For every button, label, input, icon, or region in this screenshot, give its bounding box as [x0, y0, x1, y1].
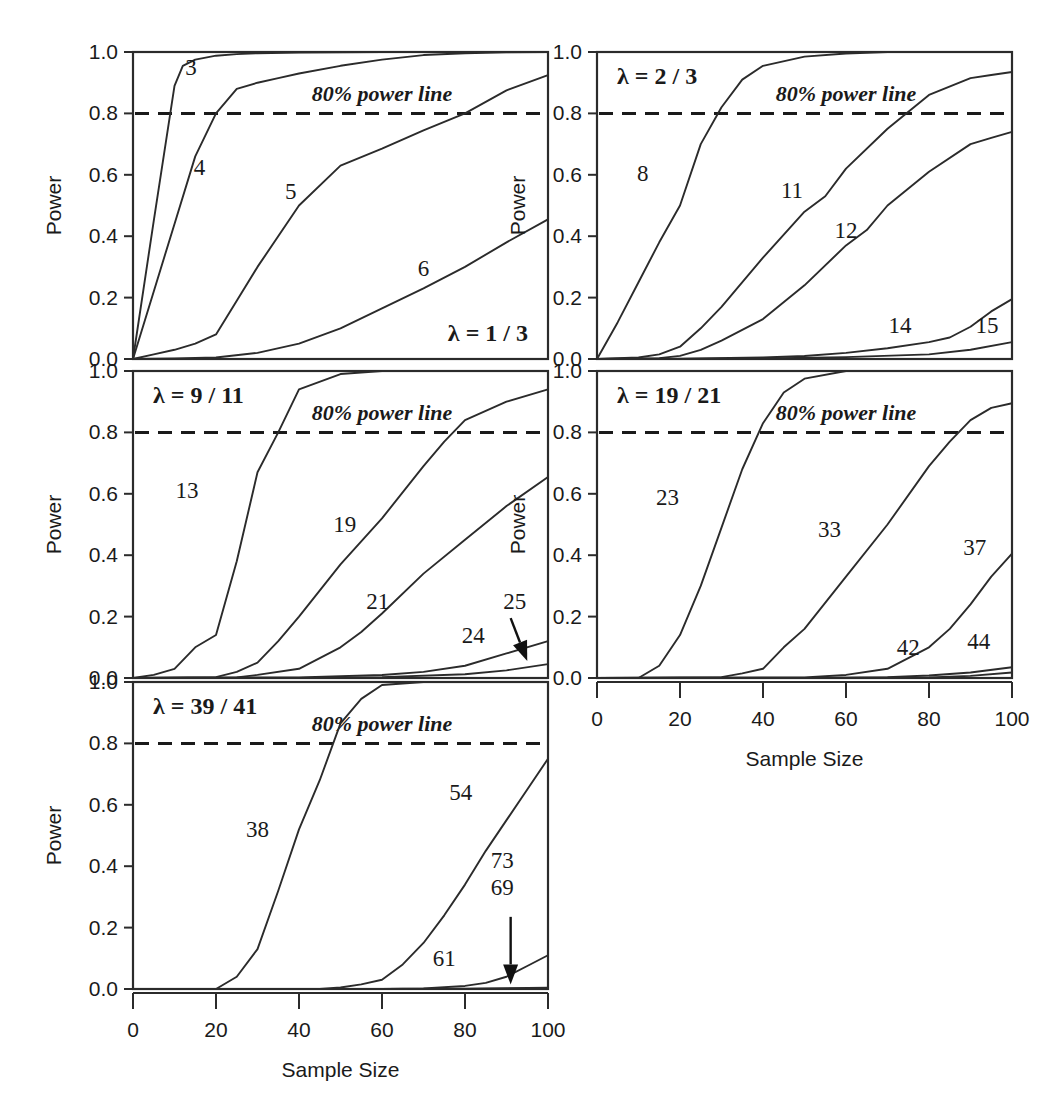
curve-label-8: 8	[637, 161, 649, 186]
x-axis-tick-label: 100	[530, 1018, 565, 1041]
y-axis-title: Power	[506, 495, 529, 555]
y-axis-tick-label: 0.8	[553, 420, 582, 443]
y-axis-tick-label: 0.6	[89, 163, 118, 186]
power-line-note: 80% power line	[776, 400, 917, 425]
curve-label-73: 73	[491, 848, 514, 873]
curve-label-19: 19	[333, 512, 356, 537]
y-axis-tick-label: 0.4	[89, 854, 119, 877]
y-axis-tick-label: 0.8	[89, 101, 118, 124]
curve-label-54: 54	[449, 780, 473, 805]
y-axis-tick-label: 0.8	[89, 420, 118, 443]
y-axis-tick-label: 0.8	[89, 731, 118, 754]
lambda-label: λ = 39 / 41	[153, 693, 257, 719]
y-axis-tick-label: 1.0	[89, 40, 118, 63]
y-axis-tick-label: 0.0	[89, 977, 118, 1000]
curve-label-4: 4	[194, 155, 206, 180]
lambda-label: λ = 2 / 3	[617, 63, 697, 89]
curve-label-61: 61	[433, 946, 456, 971]
y-axis-tick-label: 0.2	[89, 916, 118, 939]
curve-label-38: 38	[246, 817, 269, 842]
curve-label-42: 42	[897, 635, 920, 660]
y-axis-tick-label: 0.6	[89, 482, 118, 505]
x-axis-tick-label: 100	[994, 707, 1029, 730]
power-curve-11	[597, 72, 1012, 359]
x-axis-tick-label: 60	[370, 1018, 393, 1041]
power-curve-12	[597, 132, 1012, 359]
y-axis-tick-label: 1.0	[553, 40, 582, 63]
x-axis-tick-label: 40	[287, 1018, 310, 1041]
y-axis-tick-label: 0.4	[553, 543, 583, 566]
power-curves-figure: 0.00.20.40.60.81.0Power80% power lineλ =…	[0, 0, 1059, 1106]
x-axis-title: Sample Size	[282, 1058, 400, 1081]
panel-19-21: 0.00.20.40.60.81.0020406080100Sample Siz…	[506, 359, 1030, 770]
annotation-arrow-head-73	[503, 964, 518, 984]
x-axis-tick-label: 60	[834, 707, 857, 730]
y-axis-tick-label: 0.2	[89, 286, 118, 309]
curve-label-5: 5	[285, 179, 297, 204]
y-axis-tick-label: 0.6	[553, 482, 582, 505]
curve-label-23: 23	[656, 485, 679, 510]
annotation-arrow-shaft-25	[511, 618, 520, 642]
y-axis-tick-label: 0.6	[553, 163, 582, 186]
curve-label-25: 25	[503, 589, 526, 614]
y-axis-tick-label: 1.0	[553, 359, 582, 382]
y-axis-tick-label: 0.4	[553, 224, 583, 247]
curve-label-14: 14	[888, 313, 912, 338]
panel-9-11: 0.00.20.40.60.81.0Power80% power lineλ =…	[42, 359, 548, 689]
power-line-note: 80% power line	[312, 400, 453, 425]
y-axis-title: Power	[42, 495, 65, 555]
x-axis-tick-label: 40	[751, 707, 774, 730]
power-curve-14	[597, 299, 1012, 359]
x-axis-tick-label: 20	[668, 707, 691, 730]
x-axis-tick-label: 0	[127, 1018, 139, 1041]
curve-label-44: 44	[967, 629, 991, 654]
panel-1-3: 0.00.20.40.60.81.0Power80% power lineλ =…	[42, 40, 548, 370]
power-line-note: 80% power line	[776, 81, 917, 106]
lambda-label: λ = 19 / 21	[617, 382, 721, 408]
x-axis-tick-label: 20	[204, 1018, 227, 1041]
curve-label-12: 12	[835, 218, 858, 243]
curve-label-13: 13	[175, 478, 198, 503]
power-curve-5	[133, 75, 548, 359]
power-line-note: 80% power line	[312, 81, 453, 106]
x-axis-tick-label: 80	[453, 1018, 476, 1041]
curve-label-15: 15	[976, 313, 999, 338]
y-axis-tick-label: 1.0	[89, 359, 118, 382]
x-axis-tick-label: 0	[591, 707, 603, 730]
power-curves-svg: 0.00.20.40.60.81.0Power80% power lineλ =…	[0, 0, 1059, 1106]
y-axis-tick-label: 0.6	[89, 793, 118, 816]
panel-2-3: 0.00.20.40.60.81.0Power80% power lineλ =…	[506, 40, 1012, 370]
y-axis-tick-label: 0.4	[89, 543, 119, 566]
power-curve-37	[597, 554, 1012, 678]
panel-39-41: 0.00.20.40.60.81.0020406080100Sample Siz…	[42, 670, 566, 1081]
lambda-label: λ = 9 / 11	[153, 382, 244, 408]
y-axis-tick-label: 0.2	[553, 605, 582, 628]
y-axis-tick-label: 0.8	[553, 101, 582, 124]
power-curve-33	[597, 403, 1012, 678]
curve-label-6: 6	[418, 256, 430, 281]
y-axis-tick-label: 0.2	[553, 286, 582, 309]
y-axis-title: Power	[42, 806, 65, 866]
y-axis-tick-label: 0.2	[89, 605, 118, 628]
y-axis-tick-label: 1.0	[89, 670, 118, 693]
y-axis-title: Power	[506, 176, 529, 236]
power-line-note: 80% power line	[312, 711, 453, 736]
power-curve-54	[133, 759, 548, 989]
y-axis-tick-label: 0.0	[553, 666, 582, 689]
curve-label-69: 69	[491, 875, 514, 900]
curve-label-21: 21	[366, 589, 389, 614]
y-axis-tick-label: 0.4	[89, 224, 119, 247]
x-axis-title: Sample Size	[746, 747, 864, 770]
curve-label-37: 37	[963, 535, 986, 560]
curve-label-11: 11	[781, 178, 803, 203]
y-axis-title: Power	[42, 176, 65, 236]
lambda-label: λ = 1 / 3	[448, 320, 528, 346]
power-curve-61	[133, 955, 548, 989]
curve-label-33: 33	[818, 517, 841, 542]
curve-label-3: 3	[185, 55, 197, 80]
x-axis-tick-label: 80	[917, 707, 940, 730]
curve-label-24: 24	[462, 623, 486, 648]
